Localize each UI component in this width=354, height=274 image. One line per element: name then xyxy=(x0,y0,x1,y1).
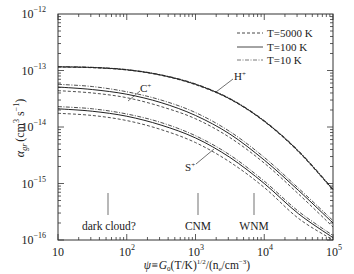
cnm-label: CNM xyxy=(185,220,211,232)
wnm-label: WNM xyxy=(239,220,268,232)
s-plus-pointer xyxy=(196,149,214,164)
curve-c-plus-dashed xyxy=(58,91,333,227)
legend-label-10k: T=10 K xyxy=(267,54,302,66)
grain-recombination-chart: 10−16 10−15 10−14 10−13 10−12 10 102 103… xyxy=(0,0,354,274)
ytick-1e-13: 10−13 xyxy=(21,62,46,78)
curve-s-plus-solid xyxy=(58,109,333,238)
ytick-1e-12: 10−12 xyxy=(21,5,46,21)
xtick-1e3: 103 xyxy=(188,243,204,259)
curve-c-plus-solid xyxy=(58,87,333,223)
y-axis-label: αgr(cm3 s−1) xyxy=(12,99,29,157)
environment-markers xyxy=(108,193,254,215)
s-plus-label: S+ xyxy=(185,161,195,173)
curve-c-plus-dash-dot xyxy=(58,84,333,220)
curve-s-plus-dash-dot xyxy=(58,107,333,236)
curve-h-plus-solid xyxy=(58,67,333,190)
x-axis-label: ψ≡G0(T/K)1/2/(ne/cm−3) xyxy=(144,258,250,273)
curve-h-plus-dash-dot xyxy=(58,67,333,189)
ytick-1e-15: 10−15 xyxy=(21,175,46,191)
curve-h-plus-dashed xyxy=(58,67,333,190)
legend-label-5000k: T=5000 K xyxy=(267,27,313,39)
x-tick-labels: 10 102 103 104 105 xyxy=(52,243,342,259)
xtick-1e5: 105 xyxy=(326,243,342,259)
curves xyxy=(58,67,333,240)
dark-cloud-label: dark cloud? xyxy=(82,220,136,232)
ytick-1e-16: 10−16 xyxy=(21,231,46,247)
legend: T=5000 K T=100 K T=10 K xyxy=(237,27,313,66)
h-plus-pointer xyxy=(216,79,233,92)
xtick-10: 10 xyxy=(52,245,64,259)
curve-labels: H+ C+ S+ xyxy=(128,70,246,173)
h-plus-label: H+ xyxy=(234,70,246,82)
xtick-1e2: 102 xyxy=(119,243,135,259)
xtick-1e4: 104 xyxy=(257,243,273,259)
legend-label-100k: T=100 K xyxy=(267,41,307,53)
c-plus-label: C+ xyxy=(140,82,151,94)
